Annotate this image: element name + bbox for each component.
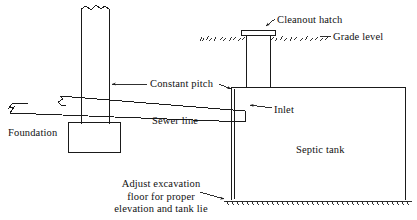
cleanout-riser xyxy=(246,35,270,87)
septic-system-diagram: Cleanout hatch Grade level Constant pitc… xyxy=(0,0,417,220)
label-adjust-excavation-note: Adjust excavation floor for proper eleva… xyxy=(96,178,226,216)
house-foundation-wall xyxy=(81,5,109,124)
label-septic-tank: Septic tank xyxy=(296,144,345,157)
label-cleanout-hatch: Cleanout hatch xyxy=(277,14,342,27)
grade-level-ground-line xyxy=(200,36,328,41)
label-inlet: Inlet xyxy=(274,104,294,117)
label-grade-level: Grade level xyxy=(333,31,383,44)
label-foundation: Foundation xyxy=(8,127,57,140)
cleanout-hatch-cap xyxy=(241,30,275,35)
label-constant-pitch: Constant pitch xyxy=(150,78,213,91)
foundation-footing xyxy=(68,122,120,152)
sloped-sewer-pipe xyxy=(9,96,245,122)
label-sewer-line: Sewer line xyxy=(152,115,198,128)
excavation-floor-hatching xyxy=(224,201,412,205)
